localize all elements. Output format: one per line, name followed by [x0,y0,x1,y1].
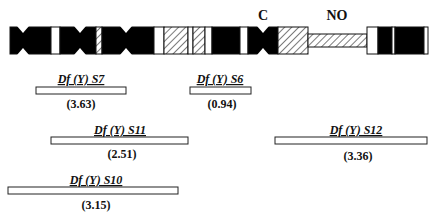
deficiency-bar [8,187,178,194]
deficiency-s6: Df (Y) S6 (0.94) [190,72,251,111]
chromosome-band [102,27,154,54]
chromosome-band [51,27,60,54]
deficiency-name: Df (Y) S11 [93,123,146,137]
chromosome-band [96,27,102,54]
chromosome-band [188,27,193,54]
chromosome-diagram: C NO Df (Y) S7 (3.63) Df (Y) S6 (0.94) D… [0,0,436,216]
deficiency-bar [36,87,126,94]
deficiency-value: (3.36) [344,149,373,163]
deficiency-name: Df (Y) S6 [196,72,244,86]
chromosome-band [205,27,212,54]
deficiency-bar [275,137,427,144]
chromosome-bands [10,26,428,55]
chromosome-band [60,27,96,54]
deficiency-s11: Df (Y) S11 (2.51) [51,123,188,161]
deficiency-name: Df (Y) S12 [329,123,383,137]
centromere-label: C [258,8,268,23]
deficiency-value: (3.15) [82,198,111,212]
deficiency-value: (0.94) [208,97,237,111]
deficiency-name: Df (Y) S7 [57,72,106,86]
chromosome-band [378,27,392,54]
deficiency-s10: Df (Y) S10 (3.15) [8,173,178,212]
chromosome-band [193,27,205,54]
deficiency-s7: Df (Y) S7 (3.63) [36,72,126,111]
deficiency-bar [190,87,251,94]
chromosome-band [240,27,248,54]
chromosome-band [10,27,51,54]
chromosome-band [367,27,378,54]
deficiency-bar [51,137,188,144]
deficiency-value: (3.63) [67,97,96,111]
chromosome-band [212,27,240,54]
chromosome-band [395,27,424,54]
nucleolus-organizer-label: NO [327,8,348,23]
deficiency-name: Df (Y) S10 [69,173,123,187]
chromosome-band [278,27,308,54]
deficiency-s12: Df (Y) S12 (3.36) [275,123,427,163]
chromosome-band [424,27,428,54]
chromosome-band [154,27,164,54]
chromosome-band [164,27,188,54]
chromosome-band [308,34,367,47]
deficiency-value: (2.51) [108,147,137,161]
